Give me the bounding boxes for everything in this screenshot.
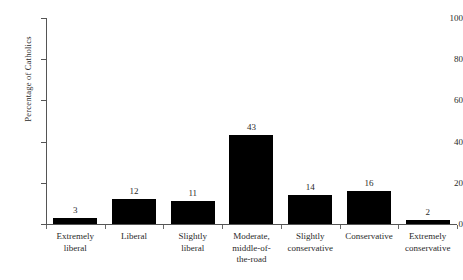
bar-group[interactable]: 16 (340, 18, 399, 224)
x-axis-label-line: conservative (398, 243, 457, 255)
bar-value-label: 2 (425, 207, 430, 217)
x-axis-line (46, 224, 457, 225)
x-tick-7 (457, 225, 458, 229)
x-axis-label-line: Extremely (46, 231, 105, 243)
x-axis-label-line: the-road (222, 254, 281, 266)
x-axis-label-line: Moderate, (222, 231, 281, 243)
x-tick-3 (222, 225, 223, 229)
bar-group[interactable]: 2 (398, 18, 457, 224)
plot-area: 312114314162 (46, 18, 457, 224)
bar[interactable] (347, 191, 391, 224)
bar[interactable] (288, 195, 332, 224)
x-axis-label-line: Conservative (340, 231, 399, 243)
x-axis-label-line: liberal (46, 243, 105, 255)
x-axis-label: Slightlyconservative (281, 231, 340, 254)
x-tick-4 (281, 225, 282, 229)
bar-value-label: 16 (364, 178, 373, 188)
x-axis-label: Extremelyliberal (46, 231, 105, 254)
x-tick-1 (105, 225, 106, 229)
x-axis-label-line: Extremely (398, 231, 457, 243)
x-axis-label: Conservative (340, 231, 399, 243)
y-axis-title: Percentage of Catholics (23, 0, 33, 159)
x-axis-label-line: Slightly (163, 231, 222, 243)
bar[interactable] (229, 135, 273, 224)
bar-chart: Percentage of Catholics 020406080100 312… (0, 0, 463, 280)
bar-value-label: 3 (73, 205, 78, 215)
x-axis-label-line: Slightly (281, 231, 340, 243)
bar-group[interactable]: 43 (222, 18, 281, 224)
x-axis-label: Extremelyconservative (398, 231, 457, 254)
x-axis-label-line: middle-of- (222, 243, 281, 255)
x-axis-label: Slightlyliberal (163, 231, 222, 254)
bar[interactable] (53, 218, 97, 224)
bar[interactable] (406, 220, 450, 224)
bar-group[interactable]: 14 (281, 18, 340, 224)
bar-value-label: 14 (306, 182, 315, 192)
bar-value-label: 43 (247, 122, 256, 132)
bar[interactable] (171, 201, 215, 224)
x-tick-6 (398, 225, 399, 229)
x-axis-label-line: Liberal (105, 231, 164, 243)
bar-value-label: 11 (188, 188, 197, 198)
bar[interactable] (112, 199, 156, 224)
bar-group[interactable]: 11 (163, 18, 222, 224)
bar-group[interactable]: 12 (105, 18, 164, 224)
x-axis-label-line: liberal (163, 243, 222, 255)
bar-value-label: 12 (130, 186, 139, 196)
x-tick-0 (46, 225, 47, 229)
bar-group[interactable]: 3 (46, 18, 105, 224)
x-axis-label: Moderate,middle-of-the-road (222, 231, 281, 266)
x-axis-label-line: conservative (281, 243, 340, 255)
x-tick-5 (340, 225, 341, 229)
x-axis-label: Liberal (105, 231, 164, 243)
x-tick-2 (163, 225, 164, 229)
x-axis-labels: ExtremelyliberalLiberalSlightlyliberalMo… (46, 231, 457, 279)
